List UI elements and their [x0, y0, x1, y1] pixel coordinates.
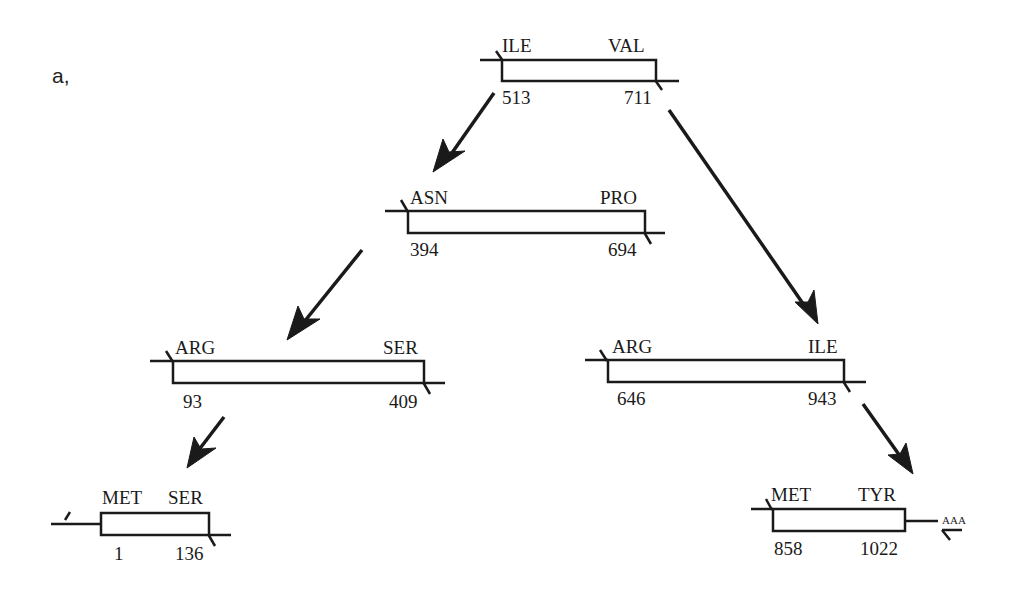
fragment-box-6 — [751, 499, 962, 540]
arrow-f4-to-f6 — [863, 404, 913, 474]
f6-end-pos: 1022 — [860, 539, 898, 558]
fragment-box-5 — [51, 512, 231, 546]
arrow-f3-to-f5 — [187, 417, 224, 468]
f5-end-aa: SER — [168, 488, 203, 507]
f1-start-aa: ILE — [502, 36, 532, 55]
fragment-box-1 — [480, 51, 679, 90]
f4-start-aa: ARG — [612, 337, 652, 356]
f2-end-pos: 694 — [608, 240, 637, 259]
f6-start-aa: MET — [771, 485, 811, 504]
f3-start-aa: ARG — [175, 338, 215, 357]
f1-end-aa: VAL — [608, 36, 645, 55]
arrow-f1-to-f4 — [669, 110, 818, 324]
f5-end-pos: 136 — [175, 544, 204, 563]
f3-start-pos: 93 — [183, 392, 202, 411]
f6-end-aa: TYR — [858, 485, 896, 504]
f6-polya-label: AAA — [942, 515, 966, 526]
f2-start-pos: 394 — [410, 240, 439, 259]
f4-end-pos: 943 — [808, 389, 837, 408]
f1-start-pos: 513 — [502, 88, 531, 107]
f6-start-pos: 858 — [774, 539, 803, 558]
arrow-f2-to-f3 — [287, 250, 362, 340]
f3-end-pos: 409 — [389, 392, 418, 411]
f1-end-pos: 711 — [624, 88, 652, 107]
f4-start-pos: 646 — [617, 389, 646, 408]
f5-start-pos: 1 — [114, 544, 124, 563]
f5-start-aa: MET — [102, 488, 142, 507]
f2-start-aa: ASN — [410, 188, 448, 207]
f2-end-aa: PRO — [600, 188, 637, 207]
f4-end-aa: ILE — [808, 337, 838, 356]
arrow-f1-to-f2 — [433, 93, 494, 172]
f3-end-aa: SER — [383, 338, 418, 357]
